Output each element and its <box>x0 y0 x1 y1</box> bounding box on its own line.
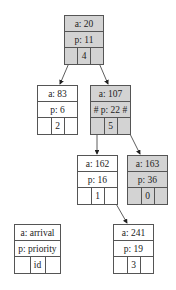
node-id: 0 <box>141 188 155 204</box>
legend-priority: p: priority <box>15 241 60 257</box>
node-arrival: a: 83 <box>38 86 77 102</box>
node-priority: p: 36 <box>128 172 167 188</box>
node-id: 3 <box>127 257 141 273</box>
legend-node: a: arrival p: priority id <box>14 224 61 274</box>
legend-id: id <box>30 257 46 273</box>
node-id: 4 <box>77 48 91 64</box>
edge-n162-n241 <box>115 202 127 223</box>
tree-node-83: a: 83 p: 6 2 <box>37 85 78 135</box>
node-priority: p: 6 <box>38 102 77 118</box>
tree-node-107: a: 107 # p: 22 # 5 <box>90 85 131 135</box>
tree-node-162: a: 162 p: 16 1 <box>77 155 118 205</box>
edge-root-n107 <box>99 63 108 84</box>
node-priority: p: 16 <box>78 172 117 188</box>
tree-node-163: a: 163 p: 36 0 <box>127 155 168 205</box>
node-priority: p: 11 <box>65 32 103 48</box>
node-arrival: a: 162 <box>78 156 117 172</box>
node-arrival: a: 163 <box>128 156 167 172</box>
node-id: 1 <box>91 188 105 204</box>
node-id: 5 <box>104 118 118 134</box>
edge-n107-n163 <box>129 132 140 154</box>
node-arrival: a: 107 <box>91 86 130 102</box>
node-id: 2 <box>51 118 65 134</box>
node-priority: # p: 22 # <box>91 102 130 118</box>
tree-node-241: a: 241 p: 19 3 <box>113 224 154 274</box>
legend-arrival: a: arrival <box>15 225 60 241</box>
tree-node-root: a: 20 p: 11 4 <box>64 15 104 65</box>
edge-root-n83 <box>60 63 69 84</box>
node-arrival: a: 241 <box>114 225 153 241</box>
node-priority: p: 19 <box>114 241 153 257</box>
node-arrival: a: 20 <box>65 16 103 32</box>
